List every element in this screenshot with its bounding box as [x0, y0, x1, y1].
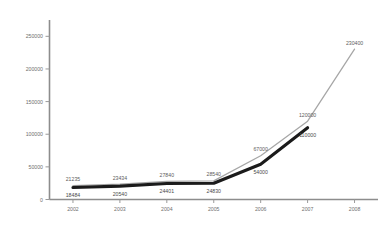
data-point-label: 20540 [113, 191, 128, 197]
x-tick-label: 2008 [349, 206, 361, 212]
y-tick-label: 200000 [26, 66, 43, 72]
y-tick-label: 50000 [29, 164, 44, 170]
y-tick-label: 250000 [26, 33, 43, 39]
x-tick-label: 2006 [255, 206, 267, 212]
y-tick-label: 150000 [26, 99, 43, 105]
data-point-label: 18484 [66, 192, 81, 198]
x-tick-label: 2002 [67, 206, 79, 212]
x-tick-label: 2005 [208, 206, 220, 212]
y-axis: 050000100000150000200000250000 [26, 20, 50, 203]
data-point-label: 54000 [253, 169, 268, 175]
data-point-label: 27840 [160, 172, 175, 178]
chart-canvas: 050000100000150000200000250000 200220032… [0, 0, 386, 225]
line-chart: 050000100000150000200000250000 200220032… [0, 0, 386, 225]
x-axis: 2002200320042005200620072008 [50, 200, 379, 213]
data-labels-upper: 2123523434278402854067000120000230400 [66, 40, 364, 183]
data-point-label: 24401 [160, 188, 175, 194]
data-point-label: 23434 [113, 175, 128, 181]
y-tick-label: 0 [40, 197, 43, 203]
data-point-label: 120000 [299, 112, 316, 118]
series-line-lower [73, 128, 308, 188]
data-point-label: 230400 [346, 40, 363, 46]
y-tick-group: 050000100000150000200000250000 [26, 33, 50, 202]
x-tick-label: 2004 [161, 206, 173, 212]
data-point-label: 67000 [253, 146, 268, 152]
x-tick-group: 2002200320042005200620072008 [67, 200, 360, 213]
data-point-label: 28540 [207, 171, 222, 177]
x-tick-label: 2007 [302, 206, 314, 212]
x-tick-label: 2003 [114, 206, 126, 212]
y-tick-label: 100000 [26, 131, 43, 137]
data-point-label: 110000 [299, 132, 316, 138]
data-point-label: 21235 [66, 176, 81, 182]
data-point-label: 24830 [207, 188, 222, 194]
series-group [73, 49, 355, 187]
